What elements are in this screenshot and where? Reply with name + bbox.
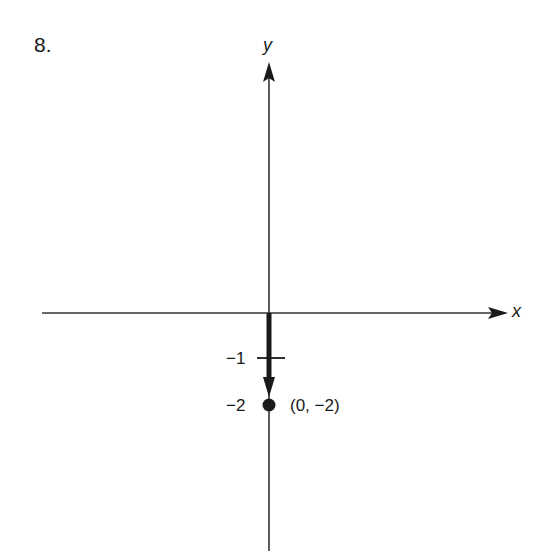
vector-arrowhead-icon — [263, 377, 275, 397]
point-dot — [263, 399, 276, 412]
tick-label-neg1: −1 — [226, 350, 245, 367]
y-axis — [263, 62, 275, 551]
problem-number: 8. — [34, 34, 52, 55]
tick-label-neg2: −2 — [226, 397, 245, 414]
point-label: (0, −2) — [290, 397, 340, 414]
coordinate-plane — [0, 0, 553, 559]
x-axis-label: x — [512, 302, 521, 320]
vector-arrow — [263, 313, 275, 397]
x-axis — [42, 307, 508, 319]
y-axis-label: y — [263, 36, 272, 54]
